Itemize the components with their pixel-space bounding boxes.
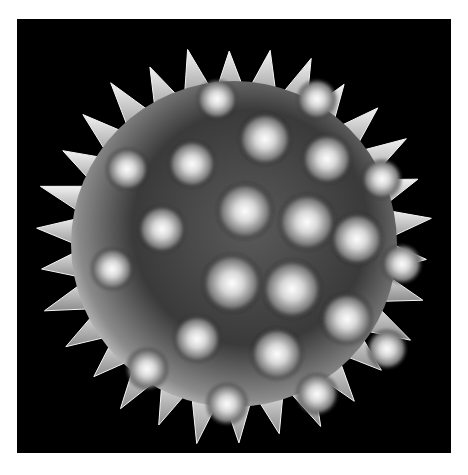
surface-bump bbox=[167, 139, 217, 189]
surface-bump bbox=[215, 181, 275, 241]
surface-bump bbox=[137, 204, 187, 254]
surface-bump bbox=[201, 252, 264, 315]
surface-bump bbox=[277, 192, 337, 252]
surface-bump bbox=[205, 382, 250, 427]
surface-bump bbox=[361, 158, 404, 201]
surface-bump bbox=[105, 147, 150, 192]
surface-bump bbox=[90, 247, 135, 292]
surface-bump bbox=[172, 314, 222, 364]
surface-bump bbox=[320, 292, 375, 347]
micrograph-frame bbox=[17, 19, 451, 453]
surface-bump bbox=[238, 112, 293, 167]
surface-bump bbox=[250, 327, 305, 382]
surface-bump bbox=[295, 372, 340, 417]
surface-bump bbox=[261, 258, 324, 321]
surface-bump bbox=[301, 133, 354, 186]
surface-bump bbox=[196, 78, 239, 121]
surface-bump bbox=[125, 347, 170, 392]
surface-bump bbox=[296, 78, 339, 121]
pollen-grain-image bbox=[17, 19, 451, 453]
surface-bump bbox=[381, 243, 424, 286]
surface-bump bbox=[330, 212, 385, 267]
surface-bump bbox=[366, 328, 409, 371]
